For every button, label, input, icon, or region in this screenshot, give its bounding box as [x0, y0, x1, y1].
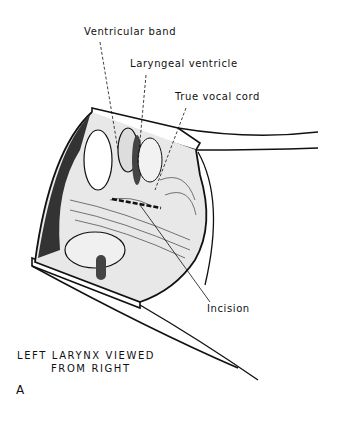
- label-true-vocal-cord: True vocal cord: [175, 91, 260, 102]
- panel-letter: A: [16, 383, 26, 397]
- caption-line-1: LEFT LARYNX VIEWED: [17, 350, 155, 361]
- label-laryngeal-ventricle: Laryngeal ventricle: [130, 58, 238, 69]
- label-incision: Incision: [207, 303, 250, 314]
- label-ventricular-band: Ventricular band: [84, 26, 176, 37]
- caption-line-2: FROM RIGHT: [51, 363, 131, 374]
